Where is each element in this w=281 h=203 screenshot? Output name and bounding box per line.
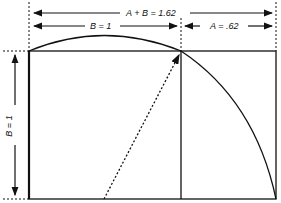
golden-rectangle: [29, 51, 276, 199]
total-width-label: A + B = 1.62: [124, 8, 178, 18]
square-side-label: B = 1: [88, 21, 113, 31]
dimension-arrows: [15, 13, 272, 195]
height-label: B = 1: [4, 113, 14, 138]
extension-lines: [3, 2, 276, 199]
remainder-label: A = .62: [208, 21, 240, 31]
radius-arrow: [104, 55, 179, 199]
golden-arc: [29, 36, 276, 200]
